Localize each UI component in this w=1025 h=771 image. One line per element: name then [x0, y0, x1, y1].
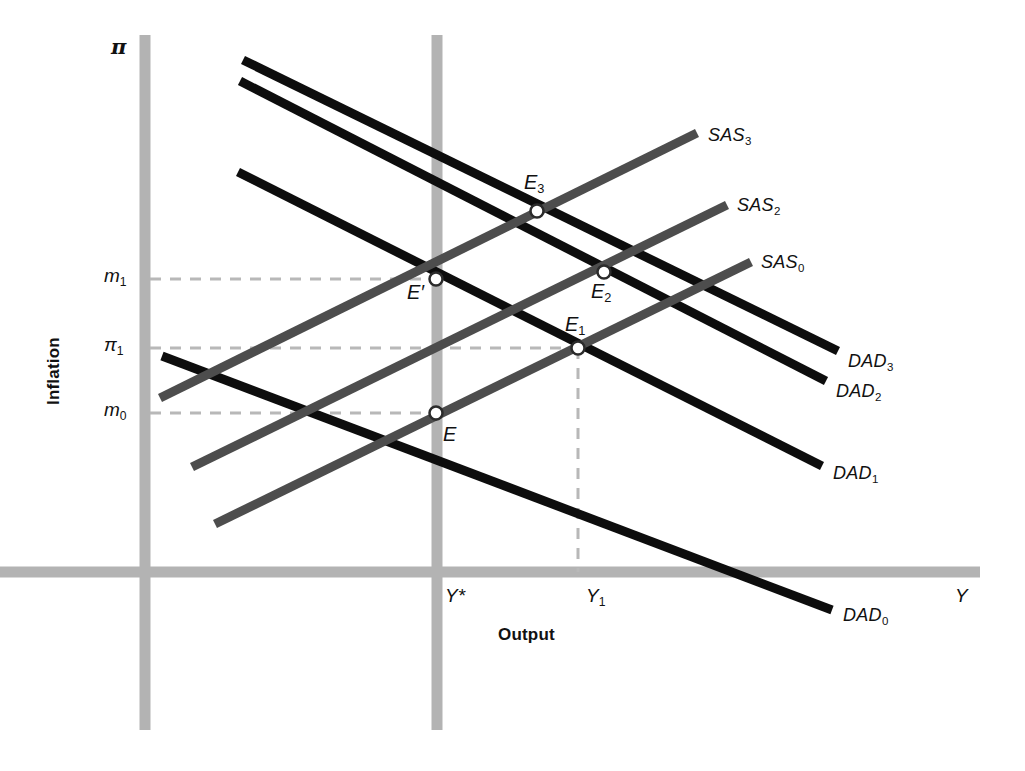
y-tick-label-m0: m0 — [104, 400, 127, 419]
curve-label-DAD0: DAD0 — [843, 606, 889, 624]
curve-label-DAD3: DAD3 — [848, 352, 894, 370]
point-E2 — [598, 266, 611, 279]
x-axis-name: Output — [498, 626, 555, 643]
point-E1 — [572, 342, 585, 355]
point-label-E2: E2 — [591, 281, 611, 301]
gridlines-group — [0, 35, 980, 730]
y-axis-symbol: π — [111, 36, 126, 57]
curve-label-SAS0: SAS0 — [761, 253, 805, 271]
curve-SAS2 — [192, 205, 727, 467]
curve-label-SAS3: SAS3 — [708, 126, 752, 144]
y-tick-label-pi1: π1 — [104, 335, 124, 354]
dad-sas-figure: π Y Output Inflation DAD3DAD2DAD1DAD0SAS… — [0, 0, 1025, 771]
y-tick-label-m1: m1 — [104, 266, 127, 285]
x-tick-label-Y1: Y1 — [586, 586, 605, 605]
point-Eprime — [430, 273, 443, 286]
x-axis-symbol: Y — [955, 586, 968, 605]
curve-label-DAD1: DAD1 — [833, 464, 879, 482]
point-label-E: E — [443, 424, 456, 444]
point-E — [430, 407, 443, 420]
curve-label-SAS2: SAS2 — [737, 196, 781, 214]
guide-dashes-group — [150, 279, 578, 572]
point-E3 — [531, 205, 544, 218]
point-label-E3: E3 — [524, 172, 544, 192]
point-label-E1: E1 — [565, 314, 585, 334]
point-label-Eprime: E′ — [407, 282, 424, 302]
y-axis-name: Inflation — [45, 337, 62, 405]
curve-label-DAD2: DAD2 — [836, 382, 882, 400]
x-tick-label-Ystar: Y* — [445, 586, 465, 605]
